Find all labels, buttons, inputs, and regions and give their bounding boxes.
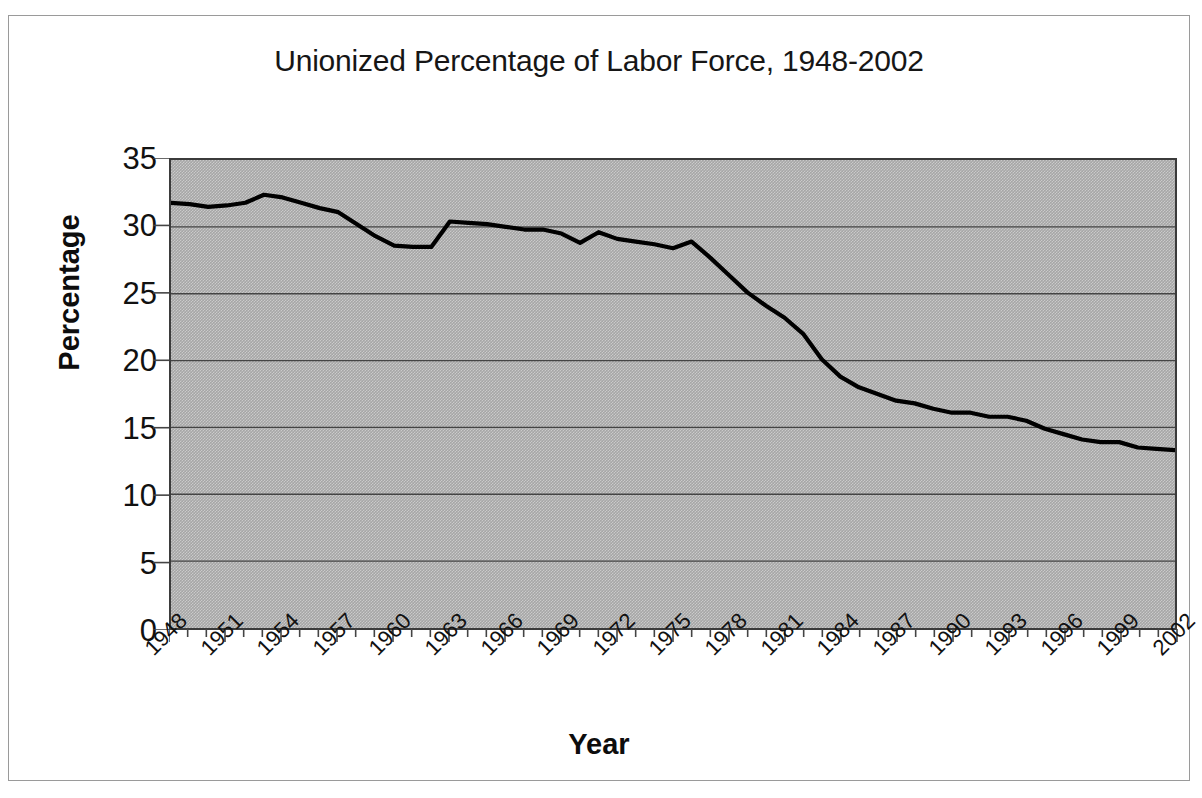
- chart-title: Unionized Percentage of Labor Force, 194…: [9, 44, 1189, 78]
- x-axis-title: Year: [9, 728, 1189, 761]
- x-axis-tick-labels: 1948195119541957196019631966196919721975…: [169, 644, 1177, 716]
- chart-frame: Unionized Percentage of Labor Force, 194…: [8, 15, 1190, 781]
- plot-area: [169, 158, 1177, 630]
- y-axis-tick-labels: 35302520151050: [69, 158, 157, 630]
- y-axis-tick-label: 30: [123, 210, 157, 241]
- data-series-line: [171, 160, 1175, 628]
- y-axis-tick-label: 35: [123, 143, 157, 174]
- y-axis-tick-label: 25: [123, 277, 157, 308]
- y-axis-tick-label: 20: [123, 345, 157, 376]
- y-axis-tick-label: 15: [123, 412, 157, 443]
- y-axis-tick-label: 10: [123, 480, 157, 511]
